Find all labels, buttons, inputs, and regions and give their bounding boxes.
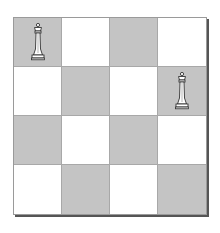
board-square-r1-c0[interactable] xyxy=(14,67,62,116)
board-square-r1-c2[interactable] xyxy=(110,67,158,116)
board-square-r2-c2[interactable] xyxy=(110,116,158,165)
white-queen-icon[interactable] xyxy=(27,22,49,62)
board-square-r0-c0[interactable] xyxy=(14,18,62,67)
white-queen-icon[interactable] xyxy=(171,71,193,111)
board-square-r3-c3[interactable] xyxy=(158,165,206,214)
board-square-r3-c0[interactable] xyxy=(14,165,62,214)
board-square-r3-c1[interactable] xyxy=(62,165,110,214)
board-square-r1-c3[interactable] xyxy=(158,67,206,116)
board-square-r3-c2[interactable] xyxy=(110,165,158,214)
puzzle-stage xyxy=(0,0,220,233)
board-square-r0-c2[interactable] xyxy=(110,18,158,67)
board-square-r0-c3[interactable] xyxy=(158,18,206,67)
board-square-r0-c1[interactable] xyxy=(62,18,110,67)
board-square-r1-c1[interactable] xyxy=(62,67,110,116)
board-square-r2-c0[interactable] xyxy=(14,116,62,165)
board-square-r2-c1[interactable] xyxy=(62,116,110,165)
chess-board xyxy=(13,17,207,215)
board-square-r2-c3[interactable] xyxy=(158,116,206,165)
